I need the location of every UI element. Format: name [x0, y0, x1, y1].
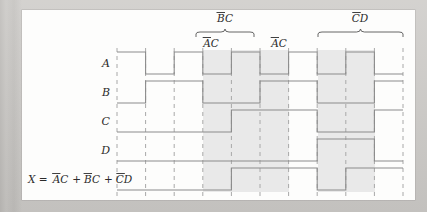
- row-labels: ABCD: [100, 57, 110, 157]
- cd-brace-brace: [318, 29, 403, 37]
- row-label-B: B: [101, 86, 110, 99]
- output-equation: X =AC+BC+CD: [27, 173, 133, 185]
- equation-term-1-plus: +: [72, 173, 81, 185]
- bc-brace-label: BC: [216, 12, 233, 24]
- ac-brace-right-label: AC: [270, 37, 287, 49]
- ac-brace-right-label-text: AC: [270, 37, 287, 49]
- band-bc: [203, 50, 289, 192]
- bc-brace-brace: [196, 29, 254, 37]
- equation-term-2-plus: +: [104, 173, 113, 185]
- row-label-D: D: [100, 144, 110, 157]
- cd-brace-label: CD: [352, 12, 369, 24]
- timing-diagram: ABCD BCACACCD X =AC+BC+CD: [0, 0, 427, 212]
- equation-term-1: AC: [52, 173, 69, 185]
- equation-term-1-text: AC: [52, 173, 69, 185]
- equation-term-2: BC: [83, 173, 100, 185]
- row-label-C: C: [102, 115, 111, 128]
- bc-brace-label-text: BC: [216, 12, 233, 24]
- brace-annotations: BCACACCD: [196, 12, 403, 49]
- band-cd: [318, 50, 375, 192]
- equation-term-2-text: BC: [83, 173, 100, 185]
- ac-brace-left-label: AC: [202, 37, 219, 49]
- equation-lhs: X =: [27, 173, 48, 185]
- figure-root: ABCD BCACACCD X =AC+BC+CD: [0, 0, 427, 212]
- cd-brace-label-text: CD: [352, 12, 369, 24]
- equation-term-3: CD: [116, 173, 133, 185]
- equation-term-3-text: CD: [116, 173, 133, 185]
- ac-brace-left-label-text: AC: [202, 37, 219, 49]
- row-label-A: A: [101, 57, 110, 70]
